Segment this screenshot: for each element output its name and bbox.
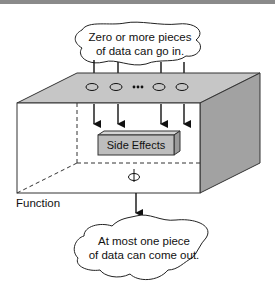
output-cloud-text: At most one piece of data can come out. xyxy=(80,234,208,262)
input-cloud-line-2: of data can go in. xyxy=(84,44,196,58)
input-cloud-line-1: Zero or more pieces xyxy=(84,30,196,44)
output-cloud-line-1: At most one piece xyxy=(80,234,208,248)
function-label: Function xyxy=(16,197,60,209)
input-cloud-text: Zero or more pieces of data can go in. xyxy=(84,30,196,58)
output-cloud-line-2: of data can come out. xyxy=(80,248,208,262)
ellipsis-dots xyxy=(133,86,144,89)
side-effects-label: Side Effects xyxy=(98,138,174,152)
